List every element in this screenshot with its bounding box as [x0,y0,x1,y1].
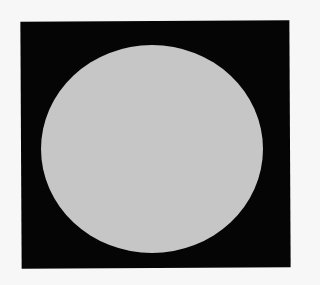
gray-disc [41,45,263,253]
